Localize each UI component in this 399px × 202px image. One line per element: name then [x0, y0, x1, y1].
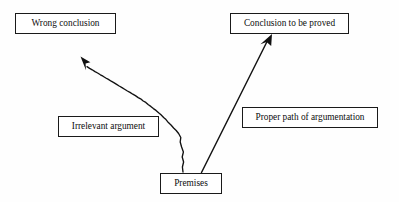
edge-irrelevant-argument [81, 57, 184, 173]
node-premises: Premises [160, 173, 222, 194]
node-wrong-conclusion: Wrong conclusion [15, 13, 116, 34]
node-conclusion-to-be-proved: Conclusion to be proved [230, 13, 349, 34]
node-irrelevant-argument-label: Irrelevant argument [71, 122, 146, 131]
node-wrong-conclusion-label: Wrong conclusion [30, 19, 100, 28]
node-conclusion-to-be-proved-label: Conclusion to be proved [243, 19, 336, 28]
node-premises-label: Premises [173, 179, 209, 188]
edge-proper-path [202, 34, 273, 173]
node-irrelevant-argument: Irrelevant argument [58, 116, 159, 137]
argumentation-diagram: Wrong conclusion Conclusion to be proved… [0, 0, 399, 202]
node-proper-path-of-argumentation: Proper path of argumentation [242, 107, 378, 128]
node-proper-path-of-argumentation-label: Proper path of argumentation [254, 113, 365, 122]
